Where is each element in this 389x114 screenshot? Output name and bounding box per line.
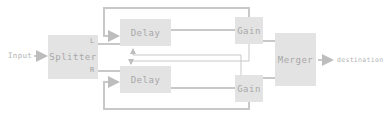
cross-feedback-top-to-bottom <box>131 44 249 64</box>
merger-label: Merger <box>278 55 314 65</box>
splitter-label: Splitter <box>49 52 96 62</box>
input-label: Input <box>8 51 32 60</box>
delay-top-node[interactable]: Delay <box>120 19 171 46</box>
splitter-port-r: R <box>90 66 94 74</box>
gain-bottom-node[interactable]: Gain <box>235 75 263 102</box>
delay-bottom-label: Delay <box>131 75 161 85</box>
splitter-port-l: L <box>90 37 94 45</box>
delay-top-label: Delay <box>131 28 161 38</box>
delay-bottom-node[interactable]: Delay <box>120 66 171 93</box>
gain-top-label: Gain <box>237 26 261 36</box>
destination-label: destination <box>337 56 383 64</box>
gain-bottom-label: Gain <box>237 84 261 94</box>
merger-node[interactable]: Merger <box>275 33 316 86</box>
gain-top-node[interactable]: Gain <box>235 17 263 44</box>
